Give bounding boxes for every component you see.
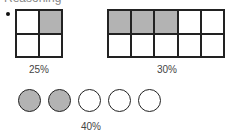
circle bbox=[78, 89, 101, 112]
grid-2x5-label: 30% bbox=[157, 64, 177, 75]
grid-cell bbox=[201, 10, 224, 34]
grid-cell bbox=[39, 34, 62, 58]
grid-cell bbox=[131, 34, 154, 58]
bullet-point bbox=[6, 12, 10, 16]
grid-cell bbox=[201, 34, 224, 58]
grid-cell-shaded bbox=[131, 10, 154, 34]
grid-cell bbox=[108, 34, 131, 58]
grid-2x5 bbox=[107, 9, 225, 58]
grid-cell-shaded bbox=[154, 10, 177, 34]
clipped-heading: Reasoning bbox=[4, 0, 61, 5]
circle-shaded bbox=[48, 89, 71, 112]
grid-cell-shaded bbox=[108, 10, 131, 34]
grid-cell bbox=[178, 34, 201, 58]
grid-cell bbox=[178, 10, 201, 34]
grid-2x2-label: 25% bbox=[29, 64, 49, 75]
grid-cell bbox=[16, 10, 39, 34]
grid-2x2 bbox=[15, 9, 63, 58]
circle-row-label: 40% bbox=[81, 121, 101, 132]
grid-cell bbox=[154, 34, 177, 58]
circle-row bbox=[18, 89, 161, 112]
grid-cell bbox=[16, 34, 39, 58]
circle bbox=[138, 89, 161, 112]
circle-shaded bbox=[18, 89, 41, 112]
grid-cell-shaded bbox=[39, 10, 62, 34]
circle bbox=[108, 89, 131, 112]
